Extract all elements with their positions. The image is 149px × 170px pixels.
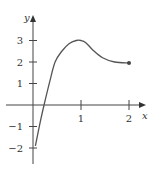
x-tick-label: 1 <box>78 113 84 124</box>
function-curve <box>35 40 129 146</box>
y-tick-label: 2 <box>17 57 23 68</box>
y-tick-label: 3 <box>17 35 23 46</box>
x-axis-arrow-icon <box>139 102 146 108</box>
ticks: 321−1−212 <box>8 35 132 154</box>
y-tick-label: −2 <box>8 143 23 154</box>
y-tick-label: −1 <box>8 121 23 132</box>
function-graph: y x 321−1−212 <box>0 0 149 170</box>
y-tick-label: 1 <box>17 78 23 89</box>
axes: y x <box>6 12 148 164</box>
x-tick-label: 2 <box>126 113 132 124</box>
y-axis-arrow-icon <box>30 15 36 22</box>
y-axis-label: y <box>23 12 30 23</box>
endpoint-dot <box>127 61 131 65</box>
x-axis-label: x <box>142 110 148 121</box>
